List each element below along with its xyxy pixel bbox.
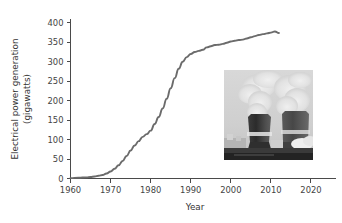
y-tick-label: 350 [48, 37, 64, 47]
y-tick-label: 0 [58, 174, 63, 184]
y-tick-label: 300 [48, 57, 64, 67]
x-tick-label: 2020 [300, 185, 321, 195]
y-tick-label: 250 [48, 76, 64, 86]
y-axis-title-line2: (gigawatts) [22, 74, 32, 124]
x-axis-title: Year [185, 202, 205, 212]
x-axis-ticks: 1960197019801990200020102020 [60, 179, 322, 195]
x-tick-label: 1970 [100, 185, 121, 195]
x-tick-label: 1990 [180, 185, 201, 195]
y-tick-label: 400 [48, 18, 64, 28]
x-tick-label: 1980 [140, 185, 161, 195]
y-axis-ticks: 050100150200250300350400 [48, 18, 71, 184]
y-tick-label: 200 [48, 96, 64, 106]
x-tick-label: 1960 [60, 185, 81, 195]
x-tick-label: 2010 [260, 185, 281, 195]
x-tick-label: 2000 [220, 185, 241, 195]
y-tick-label: 100 [48, 135, 64, 145]
y-axis-title-line1: Electrical power generation [10, 38, 20, 159]
y-tick-label: 50 [53, 154, 64, 164]
chart-figure: 050100150200250300350400 196019701980199… [0, 0, 342, 223]
nuclear-cooling-towers-photo [224, 70, 313, 160]
y-tick-label: 150 [48, 115, 64, 125]
